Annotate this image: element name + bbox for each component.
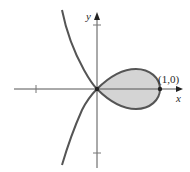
point-label: (1,0) [158,73,179,86]
origin-point [95,87,99,91]
upper-branch-curve [62,10,97,89]
point-1-0 [158,87,162,91]
x-axis-label: x [175,92,181,104]
curve-plot: (1,0) x y [0,0,190,172]
y-axis-arrow-icon [94,12,100,20]
lower-branch-curve [62,89,97,165]
y-axis-label: y [85,10,91,22]
